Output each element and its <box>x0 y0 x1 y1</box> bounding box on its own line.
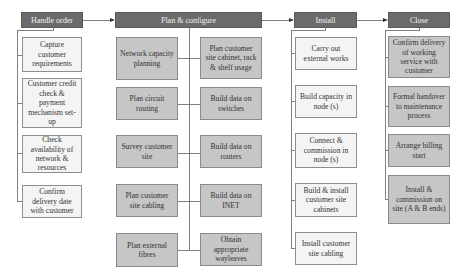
task-box: Obtain appropriate wayleaves <box>200 233 262 266</box>
task-label: Build capacity in node (s) <box>299 92 353 111</box>
task-box: Install customer site cabling <box>295 232 357 265</box>
task-box: Capture customer requirements <box>22 37 82 72</box>
task-label: Network capacity planning <box>120 49 174 68</box>
task-label: Build & install customer site cabinets <box>299 186 353 214</box>
task-label: Build data on switches <box>204 94 258 113</box>
task-label: Build data on routers <box>204 142 258 161</box>
task-box: Confirm delivery date with customer <box>22 185 82 218</box>
task-label: Confirm delivery date with customer <box>26 187 78 215</box>
task-box: Arrange billing start <box>388 134 450 167</box>
arrow-right-icon <box>110 18 115 22</box>
task-box: Check availability of network & resource… <box>22 135 82 173</box>
phase-connector <box>262 20 289 21</box>
arrow-right-icon <box>383 18 388 22</box>
task-box: Confirm delivery of working service with… <box>388 36 450 78</box>
task-box: Build data on switches <box>200 87 262 120</box>
task-label: Customer credit check & payment mechanis… <box>26 79 78 126</box>
phase-title: Plan & configure <box>161 16 216 25</box>
connector-line <box>385 30 386 200</box>
connector-line <box>178 250 200 251</box>
connector-line <box>178 153 200 154</box>
task-label: Install customer site cabling <box>299 239 353 258</box>
task-box: Build data on routers <box>200 135 262 168</box>
connector-line <box>178 58 200 59</box>
task-label: Survey customer site <box>120 142 174 161</box>
task-label: Check availability of network & resource… <box>26 135 78 173</box>
task-box: Carry out external works <box>295 37 357 70</box>
phase-connector <box>83 20 110 21</box>
task-label: Capture customer requirements <box>26 40 78 68</box>
task-box: Plan circuit routing <box>116 87 178 120</box>
phase-title: Install <box>316 16 336 25</box>
task-label: Obtain appropriate wayleaves <box>204 235 258 263</box>
phase-header-close: Close <box>388 12 450 28</box>
task-label: Connect & commission in node (s) <box>299 136 353 164</box>
connector-line <box>291 30 292 249</box>
phase-title: Close <box>410 16 428 25</box>
task-label: Formal handover to maintenance process <box>392 92 446 120</box>
task-box: Customer credit check & payment mechanis… <box>22 78 82 128</box>
task-box: Network capacity planning <box>116 37 178 80</box>
task-box: Formal handover to maintenance process <box>388 86 450 127</box>
task-box: Connect & commission in node (s) <box>295 133 357 168</box>
connector-line <box>178 201 200 202</box>
task-box: Install & commission on site (A & B ends… <box>388 175 450 224</box>
task-label: Plan customer site cabinet, rack & shelf… <box>204 44 258 72</box>
task-box: Plan customer site cabinet, rack & shelf… <box>200 37 262 79</box>
connector-line <box>17 30 54 31</box>
task-box: Plan customer site cabling <box>116 184 178 217</box>
phase-title: Handle order <box>31 16 73 25</box>
task-label: Install & commission on site (A & B ends… <box>392 185 446 213</box>
task-box: Build data on INET <box>200 184 262 217</box>
task-label: Confirm delivery of working service with… <box>392 38 446 76</box>
task-label: Plan customer site cabling <box>120 191 174 210</box>
connector-line <box>178 104 200 105</box>
task-label: Build data on INET <box>204 191 258 210</box>
task-box: Plan external fibres <box>116 233 178 267</box>
task-label: Arrange billing start <box>392 141 446 160</box>
phase-header-install: Install <box>294 12 357 28</box>
connector-line <box>291 30 326 31</box>
task-box: Build capacity in node (s) <box>295 85 357 118</box>
connector-line <box>385 30 420 31</box>
arrow-right-icon <box>289 18 294 22</box>
phase-header-plan-configure: Plan & configure <box>115 12 262 28</box>
connector-line <box>189 28 190 251</box>
task-box: Build & install customer site cabinets <box>295 183 357 217</box>
task-box: Survey customer site <box>116 135 178 168</box>
task-label: Carry out external works <box>299 44 353 63</box>
task-label: Plan circuit routing <box>120 94 174 113</box>
phase-connector <box>357 20 383 21</box>
phase-header-handle-order: Handle order <box>21 12 83 28</box>
task-label: Plan external fibres <box>120 241 174 260</box>
